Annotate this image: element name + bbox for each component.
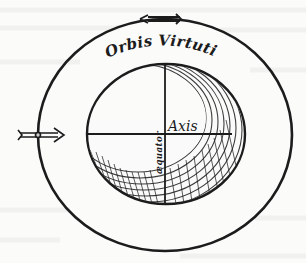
- equator-label: æquator: [154, 131, 164, 174]
- inner-body-shading: [58, 52, 242, 208]
- diagram-canvas: Orbis Virtutis: [0, 0, 306, 263]
- orbis-virtutis-diagram: Orbis Virtutis: [0, 0, 306, 263]
- orbit-arrow-left-icon: [18, 128, 64, 142]
- axis-label: Axis: [166, 118, 198, 134]
